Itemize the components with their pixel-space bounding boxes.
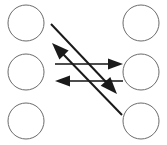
edge-middle-leftward-arrowhead-icon xyxy=(55,76,70,87)
node-right-top[interactable] xyxy=(123,5,159,41)
diagram-canvas xyxy=(0,0,167,145)
edge-diagonal-downright[interactable] xyxy=(51,24,117,94)
node-right-middle[interactable] xyxy=(123,54,159,90)
node-left-top[interactable] xyxy=(8,5,44,41)
node-left-bottom[interactable] xyxy=(8,103,44,139)
node-left-middle[interactable] xyxy=(8,54,44,90)
node-right-bottom[interactable] xyxy=(123,103,159,139)
crossing-arrows-diagram xyxy=(0,0,167,145)
edge-middle-rightward-arrowhead-icon xyxy=(108,59,123,70)
